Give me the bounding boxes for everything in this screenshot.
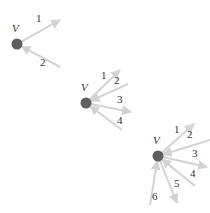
incoming-edge-arrow-2: [163, 140, 210, 155]
vertex-diagram-3: 123456V: [150, 123, 210, 205]
edge-label-4: 4: [117, 114, 123, 126]
vertex-diagram-2: 1234V: [81, 69, 132, 130]
edge-label-1: 1: [101, 69, 107, 81]
edge-label-4: 4: [190, 167, 196, 179]
edge-label-6: 6: [152, 190, 158, 202]
vertex-dot: [12, 39, 23, 50]
edge-label-2: 2: [114, 74, 120, 86]
vertex-label: V: [12, 22, 20, 34]
vertex-label: V: [81, 81, 89, 93]
edge-label-3: 3: [117, 93, 123, 105]
vertex-dot: [153, 151, 164, 162]
edge-label-3: 3: [192, 147, 198, 159]
edge-label-5: 5: [174, 177, 180, 189]
edge-label-1: 1: [36, 12, 42, 24]
vertex-edge-diagrams: 12V1234V123456V: [0, 0, 210, 213]
vertex-dot: [81, 98, 92, 109]
vertex-label: V: [153, 134, 161, 146]
edge-label-2: 2: [187, 128, 193, 140]
edge-label-2: 2: [40, 56, 46, 68]
diagram-svg: 12V1234V123456V: [0, 0, 210, 213]
edge-label-1: 1: [174, 123, 180, 135]
vertex-diagram-1: 12V: [12, 12, 61, 68]
